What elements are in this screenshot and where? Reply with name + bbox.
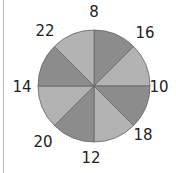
label-18: 18 bbox=[133, 126, 152, 144]
label-8: 8 bbox=[89, 3, 99, 21]
label-20: 20 bbox=[33, 133, 52, 151]
label-10: 10 bbox=[149, 78, 168, 96]
label-12: 12 bbox=[81, 149, 100, 167]
label-14: 14 bbox=[12, 78, 31, 96]
label-22: 22 bbox=[35, 22, 54, 40]
label-16: 16 bbox=[135, 24, 154, 42]
